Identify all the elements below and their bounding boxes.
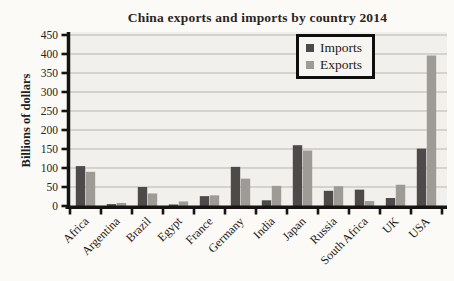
- bar-chart-plot: 050100150200250300350400450AfricaArgenti…: [0, 0, 454, 281]
- bar-exports-egypt: [179, 201, 188, 206]
- legend: ImportsExports: [296, 34, 375, 79]
- bar-imports-brazil: [138, 187, 147, 206]
- x-category-label-india: India: [250, 214, 278, 242]
- bar-exports-usa: [427, 56, 436, 206]
- x-category-label-japan: Japan: [279, 214, 308, 243]
- legend-label-imports: Imports: [320, 39, 362, 56]
- y-tick-label-450: 450: [41, 29, 59, 41]
- bar-exports-uk: [396, 185, 405, 206]
- y-tick-label-150: 150: [41, 143, 59, 155]
- bar-exports-india: [272, 186, 281, 206]
- x-category-label-egypt: Egypt: [154, 214, 185, 245]
- bar-imports-south-africa: [355, 190, 364, 206]
- bar-exports-south-africa: [365, 201, 374, 206]
- bar-imports-france: [200, 196, 209, 206]
- y-tick-label-400: 400: [41, 48, 59, 60]
- y-tick-label-350: 350: [41, 67, 59, 79]
- x-category-label-usa: USA: [406, 214, 433, 241]
- y-axis-title: Billions of dollars: [19, 73, 33, 167]
- bar-imports-usa: [417, 149, 426, 206]
- y-tick-label-300: 300: [41, 86, 59, 98]
- scanned-chart-page: China exports and imports by country 201…: [0, 0, 454, 281]
- bar-imports-africa: [76, 166, 85, 206]
- bar-exports-russia: [334, 186, 343, 206]
- bar-imports-russia: [324, 191, 333, 206]
- bar-imports-germany: [231, 167, 240, 206]
- bar-exports-germany: [241, 179, 250, 206]
- legend-label-exports: Exports: [320, 56, 362, 73]
- bar-imports-india: [262, 200, 271, 206]
- bar-exports-africa: [86, 172, 95, 206]
- bar-imports-uk: [386, 198, 395, 206]
- bar-exports-brazil: [148, 193, 157, 206]
- y-tick-label-50: 50: [47, 181, 59, 193]
- x-category-label-uk: UK: [379, 214, 401, 236]
- legend-swatch-exports: [306, 61, 314, 69]
- legend-swatch-imports: [306, 44, 314, 52]
- legend-item-exports: Exports: [306, 56, 362, 73]
- y-tick-label-250: 250: [41, 105, 59, 117]
- y-tick-label-200: 200: [41, 124, 59, 136]
- bar-imports-japan: [293, 145, 302, 206]
- y-tick-label-100: 100: [41, 162, 59, 174]
- bar-exports-japan: [303, 151, 312, 206]
- legend-item-imports: Imports: [306, 39, 362, 56]
- plot-background: [70, 32, 447, 206]
- x-category-label-brazil: Brazil: [123, 214, 154, 245]
- bar-exports-france: [210, 195, 219, 206]
- y-tick-label-0: 0: [52, 200, 58, 212]
